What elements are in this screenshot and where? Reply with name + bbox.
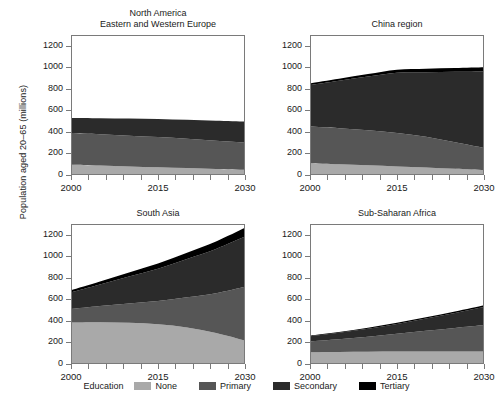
y-tick-label: 200	[266, 336, 302, 346]
area-none	[310, 352, 484, 364]
panel-title: Sub-Saharan Africa	[310, 208, 484, 219]
x-tick-mark	[362, 364, 363, 369]
legend-item-primary[interactable]: Primary	[199, 381, 251, 391]
x-tick-mark	[380, 364, 381, 369]
x-tick-mark	[345, 364, 346, 369]
y-tick-label: 800	[266, 272, 302, 282]
legend-swatch-secondary	[273, 382, 290, 390]
y-tick-label: 600	[266, 293, 302, 303]
legend-label: Secondary	[294, 381, 337, 391]
x-tick-mark	[414, 364, 415, 369]
y-tick-mark	[305, 278, 310, 279]
legend-swatch-primary	[199, 382, 216, 390]
legend-swatch-none	[134, 382, 151, 390]
x-tick-mark	[484, 364, 485, 369]
x-tick-mark	[327, 364, 328, 369]
x-tick-mark	[397, 364, 398, 369]
y-tick-mark	[305, 342, 310, 343]
legend-item-tertiary[interactable]: Tertiary	[359, 381, 410, 391]
legend-title: Education	[83, 381, 123, 391]
plot-area	[310, 224, 484, 364]
y-tick-mark	[305, 321, 310, 322]
y-tick-label: 0	[266, 358, 302, 368]
legend-label: Tertiary	[380, 381, 410, 391]
y-tick-label: 1200	[266, 229, 302, 239]
legend-swatch-tertiary	[359, 382, 376, 390]
y-tick-mark	[305, 299, 310, 300]
x-tick-mark	[467, 364, 468, 369]
legend-label: None	[155, 381, 177, 391]
legend-items: NonePrimarySecondaryTertiary	[134, 381, 409, 391]
y-tick-mark	[305, 235, 310, 236]
y-tick-label: 1000	[266, 250, 302, 260]
x-tick-mark	[449, 364, 450, 369]
y-tick-mark	[305, 256, 310, 257]
panel-title-line: Sub-Saharan Africa	[310, 208, 484, 219]
legend-item-secondary[interactable]: Secondary	[273, 381, 337, 391]
x-tick-mark	[310, 364, 311, 369]
y-tick-label: 400	[266, 315, 302, 325]
chart-legend: Education NonePrimarySecondaryTertiary	[0, 381, 493, 391]
x-tick-mark	[432, 364, 433, 369]
legend-label: Primary	[220, 381, 251, 391]
legend-item-none[interactable]: None	[134, 381, 177, 391]
